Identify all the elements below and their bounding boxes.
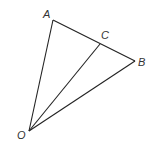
point-label-O: O: [17, 129, 26, 141]
segment-OB: [29, 61, 135, 131]
point-label-B: B: [138, 56, 145, 68]
segment-OA: [29, 20, 53, 131]
segment-AB: [53, 20, 135, 61]
geometry-diagram: A C B O: [0, 0, 156, 142]
point-label-C: C: [101, 29, 109, 41]
point-label-A: A: [42, 8, 50, 20]
segment-OC: [29, 44, 100, 131]
